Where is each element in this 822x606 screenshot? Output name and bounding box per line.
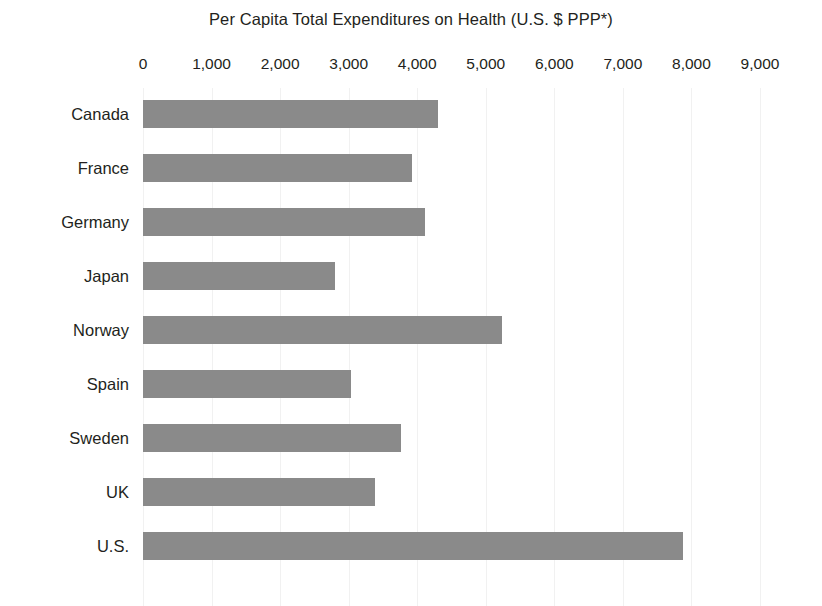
bar-row: UK	[143, 448, 760, 502]
bar-row: Germany	[143, 178, 760, 232]
bar-row: Canada	[143, 70, 760, 124]
bar-row: Japan	[143, 232, 760, 286]
category-label-japan: Japan	[84, 262, 129, 290]
bar-chart: Per Capita Total Expenditures on Health …	[0, 0, 822, 606]
bar-row: France	[143, 124, 760, 178]
category-label-u-s: U.S.	[97, 532, 129, 560]
chart-title: Per Capita Total Expenditures on Health …	[0, 10, 822, 29]
plot-area: 01,0002,0003,0004,0005,0006,0007,0008,00…	[143, 88, 760, 606]
category-label-sweden: Sweden	[69, 424, 129, 452]
category-label-uk: UK	[106, 478, 129, 506]
category-label-germany: Germany	[61, 208, 129, 236]
bar-row: Norway	[143, 286, 760, 340]
bar-row: Sweden	[143, 394, 760, 448]
bar-u-s	[143, 532, 683, 560]
category-label-norway: Norway	[73, 316, 129, 344]
gridline	[760, 88, 761, 606]
category-label-canada: Canada	[71, 100, 129, 128]
bar-row: Spain	[143, 340, 760, 394]
bar-row: U.S.	[143, 502, 760, 556]
category-label-france: France	[78, 154, 129, 182]
category-label-spain: Spain	[87, 370, 129, 398]
